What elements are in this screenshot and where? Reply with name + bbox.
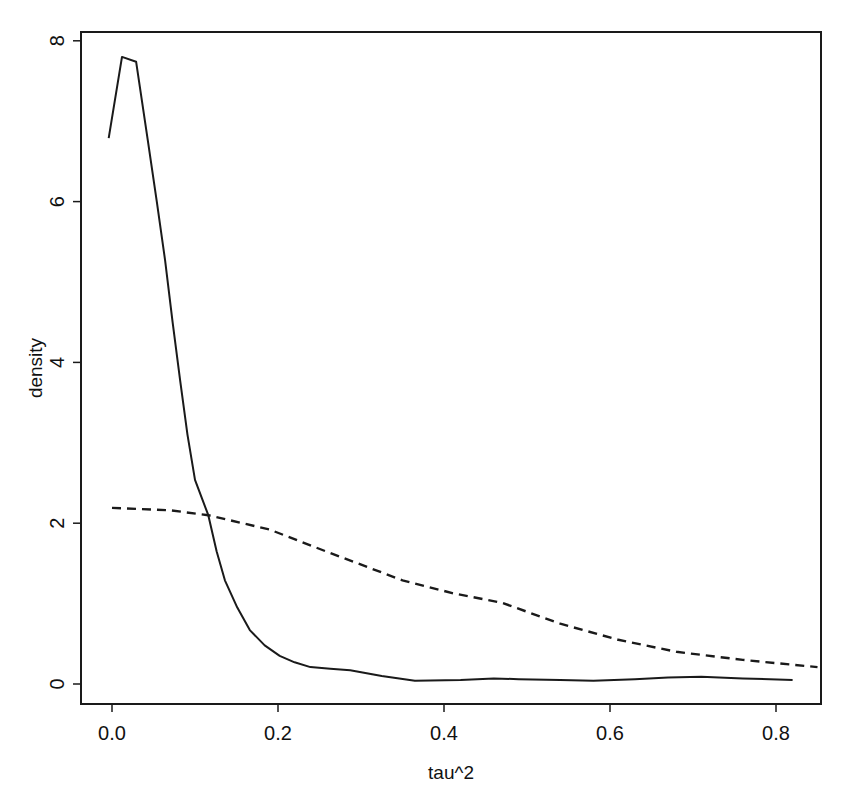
y-axis-title: density — [25, 337, 46, 398]
prior-density-line — [112, 508, 818, 667]
y-tick-label: 4 — [46, 357, 68, 368]
x-tick-label: 0.0 — [98, 722, 126, 744]
x-axis: 0.00.20.40.60.8 — [98, 704, 790, 744]
y-axis: 02468 — [46, 35, 81, 689]
x-tick-label: 0.8 — [762, 722, 790, 744]
x-tick-label: 0.2 — [264, 722, 292, 744]
x-tick-label: 0.4 — [430, 722, 458, 744]
y-tick-label: 2 — [46, 518, 68, 529]
y-tick-label: 0 — [46, 678, 68, 689]
y-tick-label: 6 — [46, 196, 68, 207]
x-axis-title: tau^2 — [428, 762, 474, 783]
posterior-density-line — [109, 57, 793, 681]
plot-series — [109, 57, 818, 681]
x-tick-label: 0.6 — [596, 722, 624, 744]
y-tick-label: 8 — [46, 35, 68, 46]
plot-frame — [81, 32, 821, 704]
density-chart: 0.00.20.40.60.8 02468 tau^2 density — [0, 0, 848, 803]
